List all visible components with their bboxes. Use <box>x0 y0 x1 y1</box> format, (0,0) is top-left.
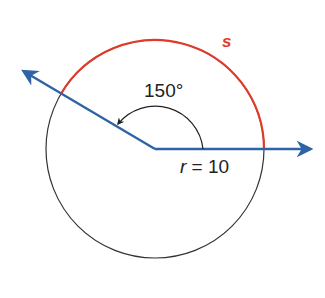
circle-diagram: s 150° r = 10 <box>0 0 325 298</box>
angle-arc <box>118 106 203 149</box>
radius-value: = 10 <box>186 156 229 177</box>
angle-label: 150° <box>144 80 183 101</box>
radius-label: r = 10 <box>180 156 229 177</box>
arc-label-s: s <box>222 32 231 51</box>
